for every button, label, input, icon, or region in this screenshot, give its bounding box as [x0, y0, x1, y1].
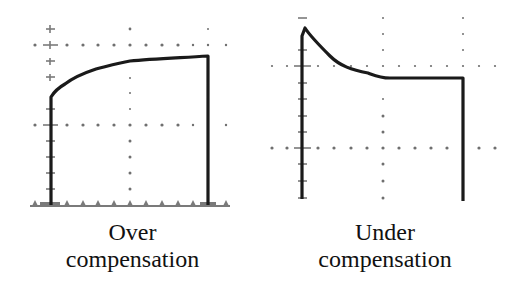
caption-line: compensation: [40, 246, 225, 273]
under-compensation-trace: [302, 28, 463, 201]
caption-line: compensation: [300, 246, 470, 273]
bottom-ticks-left: [30, 200, 230, 207]
caption-line: Over: [40, 219, 225, 246]
under-compensation-caption: Under compensation: [300, 219, 470, 273]
grid-dots-left: [33, 28, 227, 191]
under-compensation-scope: [270, 17, 496, 201]
over-compensation-caption: Over compensation: [40, 219, 225, 273]
over-compensation-scope: [30, 25, 230, 207]
caption-line: Under: [300, 219, 470, 246]
